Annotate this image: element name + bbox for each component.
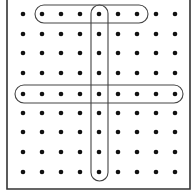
grid-dot bbox=[116, 51, 121, 56]
grid-dot bbox=[21, 32, 26, 37]
grid-dot bbox=[40, 130, 45, 135]
grid-dot bbox=[59, 32, 64, 37]
grid-dot bbox=[173, 111, 178, 116]
grid-dot bbox=[154, 32, 159, 37]
grid-dot bbox=[97, 51, 102, 56]
grid-dot bbox=[173, 32, 178, 37]
grid-dot bbox=[173, 12, 178, 17]
grid-dot bbox=[59, 92, 64, 97]
grid-dot bbox=[78, 111, 83, 116]
grid-dot bbox=[59, 170, 64, 175]
grid-dot bbox=[116, 32, 121, 37]
grid-dot bbox=[173, 92, 178, 97]
grid-dot bbox=[78, 51, 83, 56]
grid-dot bbox=[40, 150, 45, 155]
grid-dot bbox=[78, 130, 83, 135]
grid-dot bbox=[21, 111, 26, 116]
grid-dot bbox=[21, 12, 26, 17]
grid-dot bbox=[135, 32, 140, 37]
grid-dot bbox=[173, 170, 178, 175]
grid-dot bbox=[116, 111, 121, 116]
grid-dot bbox=[40, 12, 45, 17]
grid-dot bbox=[21, 170, 26, 175]
grid-dot bbox=[78, 32, 83, 37]
grid-dot bbox=[59, 130, 64, 135]
grid-dot bbox=[40, 51, 45, 56]
grid-dot bbox=[135, 170, 140, 175]
grid-dot bbox=[116, 130, 121, 135]
grid-dot bbox=[97, 111, 102, 116]
grid-dot bbox=[21, 51, 26, 56]
grid-dot bbox=[78, 150, 83, 155]
grid-dot bbox=[173, 150, 178, 155]
grid-dot bbox=[173, 71, 178, 76]
grid-dot bbox=[97, 71, 102, 76]
grid-dot bbox=[40, 92, 45, 97]
grid-dot bbox=[116, 170, 121, 175]
grid-dot bbox=[154, 71, 159, 76]
grid-dot bbox=[154, 130, 159, 135]
grid-dot bbox=[154, 12, 159, 17]
grid-dot bbox=[135, 71, 140, 76]
grid-dot bbox=[21, 92, 26, 97]
dot-grid-diagram bbox=[0, 0, 193, 192]
grid-dot bbox=[97, 92, 102, 97]
grid-dot bbox=[97, 150, 102, 155]
grid-dot bbox=[40, 111, 45, 116]
grid-dot bbox=[154, 51, 159, 56]
grid-dot bbox=[40, 170, 45, 175]
grid-dot bbox=[154, 170, 159, 175]
grid-dot bbox=[135, 150, 140, 155]
grid-dot bbox=[135, 51, 140, 56]
grid-dot bbox=[78, 71, 83, 76]
grid-dot bbox=[135, 92, 140, 97]
grid-dot bbox=[59, 111, 64, 116]
grid-dot bbox=[78, 12, 83, 17]
grid-dot bbox=[97, 12, 102, 17]
grid-dot bbox=[135, 111, 140, 116]
grid-dot bbox=[21, 150, 26, 155]
grid-dot bbox=[116, 12, 121, 17]
grid-dot bbox=[135, 12, 140, 17]
grid-dot bbox=[154, 150, 159, 155]
grid-dot bbox=[78, 92, 83, 97]
grid-dot bbox=[116, 71, 121, 76]
grid-dot bbox=[135, 130, 140, 135]
grid-dot bbox=[154, 92, 159, 97]
grid-dot bbox=[21, 71, 26, 76]
grid-dot bbox=[97, 170, 102, 175]
grid-dot bbox=[59, 71, 64, 76]
grid-dot bbox=[116, 92, 121, 97]
grid-dot bbox=[59, 12, 64, 17]
grid-dot bbox=[173, 130, 178, 135]
grid-dot bbox=[173, 51, 178, 56]
grid-dot bbox=[78, 170, 83, 175]
grid-dot bbox=[97, 130, 102, 135]
grid-dot bbox=[116, 150, 121, 155]
grid-dot bbox=[154, 111, 159, 116]
grid-dot bbox=[40, 32, 45, 37]
grid-dot bbox=[59, 51, 64, 56]
grid-dot bbox=[40, 71, 45, 76]
grid-dot bbox=[21, 130, 26, 135]
grid-dot bbox=[59, 150, 64, 155]
dot-grid bbox=[21, 12, 178, 175]
grid-dot bbox=[97, 32, 102, 37]
